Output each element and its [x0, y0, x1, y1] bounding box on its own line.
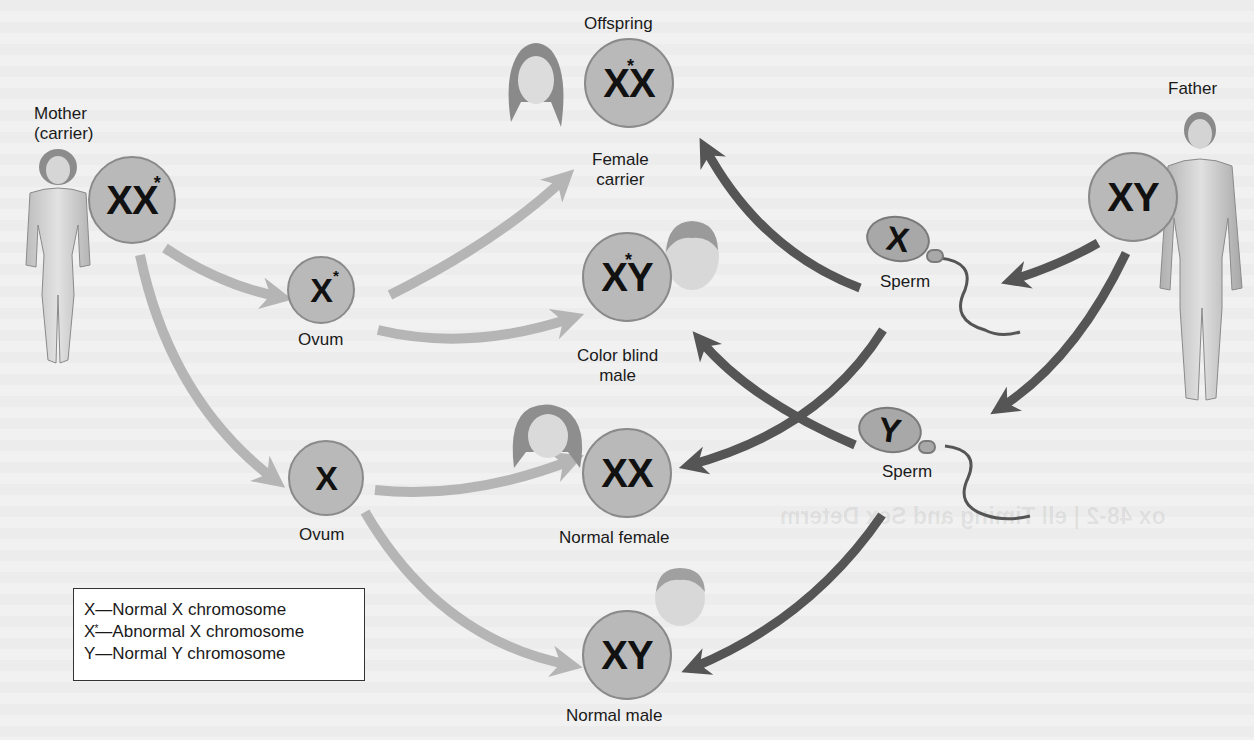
- abnormal-mark-icon: *: [333, 267, 338, 285]
- mother-label: Mother (carrier): [34, 104, 94, 144]
- sperm-y-tail: [945, 446, 1030, 519]
- girl-face-icon: [501, 32, 571, 137]
- father-genotype-circle: XY: [1088, 152, 1178, 242]
- offspring-female-carrier-circle: X*X: [584, 38, 674, 128]
- offspring-normal-female-label: Normal female: [559, 528, 670, 548]
- mother-genotype-circle: XX*: [88, 156, 176, 244]
- ovum-normal-label: Ovum: [299, 525, 344, 545]
- arrow-sperm-x-to-female-carrier: [705, 148, 860, 288]
- boy-child-face-icon: [650, 560, 710, 630]
- legend: X—Normal X chromosome X*—Abnormal X chro…: [73, 588, 365, 681]
- ovum-normal-circle: X: [288, 440, 364, 516]
- arrow-mother-to-ovum-abnormal: [165, 248, 280, 297]
- girl-child-face-icon: [508, 400, 588, 475]
- sperm-x-label: Sperm: [880, 272, 930, 292]
- arrow-ovum-normal-to-normal-male: [365, 512, 570, 665]
- sperm-x-neck: [926, 249, 944, 263]
- arrow-father-to-sperm-x: [1012, 243, 1098, 280]
- arrow-sperm-y-to-normal-male: [692, 515, 882, 668]
- abnormal-mark-icon: *: [94, 618, 98, 640]
- legend-row-abnormal-x: X*—Abnormal X chromosome: [84, 621, 364, 643]
- abnormal-mark-icon: *: [154, 173, 160, 194]
- ovum-abnormal-circle: X*: [287, 256, 355, 324]
- sperm-x-tail: [940, 258, 1020, 335]
- offspring-color-blind-male-label: Color blind male: [577, 346, 658, 386]
- arrow-ovum-abn-to-female-carrier: [390, 178, 565, 295]
- abnormal-mark-icon: *: [625, 250, 631, 271]
- abnormal-mark-icon: *: [627, 56, 633, 77]
- ovum-abnormal-label: Ovum: [298, 330, 343, 350]
- father-label: Father: [1168, 79, 1217, 99]
- arrow-ovum-abn-to-colorblind-male: [378, 318, 572, 339]
- father-figure-icon: [1150, 108, 1254, 408]
- sperm-y-label: Sperm: [882, 462, 932, 482]
- offspring-normal-male-label: Normal male: [566, 706, 662, 726]
- legend-row-normal-y: Y—Normal Y chromosome: [84, 643, 364, 665]
- offspring-normal-female-circle: XX: [582, 428, 672, 518]
- sperm-y-neck: [918, 440, 936, 454]
- offspring-female-carrier-label: Female carrier: [592, 150, 649, 190]
- offspring-color-blind-male-circle: X*Y: [582, 232, 672, 322]
- legend-row-normal-x: X—Normal X chromosome: [84, 599, 364, 621]
- offspring-normal-male-circle: XY: [582, 610, 672, 700]
- offspring-header: Offspring: [584, 14, 653, 34]
